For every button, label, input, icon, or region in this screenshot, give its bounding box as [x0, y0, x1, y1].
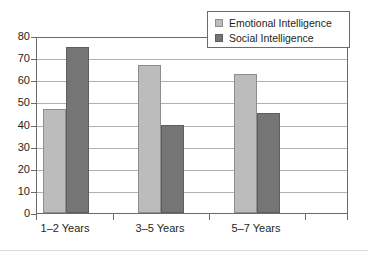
- legend-label: Social Intelligence: [229, 33, 314, 44]
- y-axis-tick-label: 30: [4, 142, 30, 153]
- x-axis-tick-mark: [305, 214, 306, 220]
- x-axis-category-label: 1–2 Years: [15, 222, 115, 234]
- legend-swatch-social-intelligence: [215, 34, 223, 42]
- bar-emotional-intelligence: [234, 74, 257, 213]
- plot-area: [36, 37, 348, 214]
- legend-item: Emotional Intelligence: [215, 16, 343, 30]
- legend-label: Emotional Intelligence: [229, 18, 332, 29]
- y-axis-tick-label: 10: [4, 186, 30, 197]
- y-axis-tick-label: 0: [4, 208, 30, 219]
- bar-social-intelligence: [257, 113, 280, 213]
- y-axis-tick-label: 50: [4, 97, 30, 108]
- bar-chart: 01020304050607080 1–2 Years3–5 Years5–7 …: [0, 0, 368, 256]
- legend-item: Social Intelligence: [215, 31, 343, 45]
- y-axis-tick-label: 60: [4, 75, 30, 86]
- chart-legend: Emotional IntelligenceSocial Intelligenc…: [207, 11, 350, 48]
- x-axis-category-label: 5–7 Years: [206, 222, 306, 234]
- bar-social-intelligence: [66, 47, 89, 213]
- y-axis-tick-label: 40: [4, 120, 30, 131]
- figure-baseline-rule: [0, 250, 368, 251]
- y-axis-tick-label: 20: [4, 164, 30, 175]
- x-axis-tick-mark: [36, 214, 37, 220]
- bar-emotional-intelligence: [138, 65, 161, 213]
- bar-social-intelligence: [161, 125, 184, 214]
- y-axis-tick-label: 80: [4, 31, 30, 42]
- legend-swatch-emotional-intelligence: [215, 19, 223, 27]
- y-axis-tick-label: 70: [4, 53, 30, 64]
- x-axis-tick-mark: [113, 214, 114, 220]
- x-axis-tick-mark: [347, 214, 348, 220]
- x-axis-category-label: 3–5 Years: [110, 222, 210, 234]
- x-axis-tick-mark: [209, 214, 210, 220]
- bar-emotional-intelligence: [43, 109, 66, 213]
